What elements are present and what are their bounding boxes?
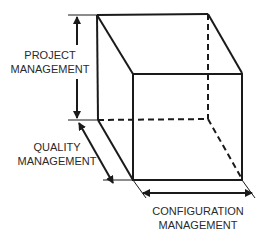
cube-edge-back-bottom-hidden [98,119,208,120]
label-configuration-line1: CONFIGURATION [152,205,244,217]
label-configuration-line2: MANAGEMENT [159,219,238,231]
cube-edge-back-top [97,14,208,15]
label-project-line1: PROJECT [24,49,76,61]
cube [97,14,242,180]
cube-edge-depth-top-right [208,14,242,73]
label-configuration-management: CONFIGURATION MANAGEMENT [152,205,244,231]
cube-front-face [133,74,242,180]
cube-edge-back-left [97,15,98,120]
cube-edge-depth-top-left [97,15,133,74]
label-quality-line1: QUALITY [33,141,81,153]
management-cube-diagram: PROJECT MANAGEMENT QUALITY MANAGEMENT CO… [0,0,269,241]
quality-management-arrow [79,123,113,183]
cube-edge-depth-bottom-right-hidden [208,119,242,179]
cube-edge-depth-bottom-left [98,120,133,180]
label-quality-management: QUALITY MANAGEMENT [18,141,97,167]
extension-lines [68,15,255,198]
label-project-management: PROJECT MANAGEMENT [11,49,90,75]
label-project-line2: MANAGEMENT [11,63,90,75]
label-quality-line2: MANAGEMENT [18,155,97,167]
